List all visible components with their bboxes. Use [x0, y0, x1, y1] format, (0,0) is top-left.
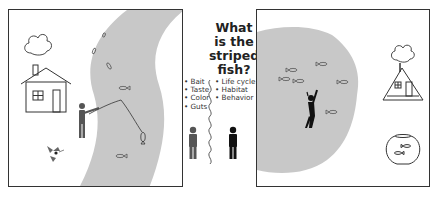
fisherman-perspective-list: Bait Taste Color Guts: [184, 78, 209, 111]
left-panel-fisherman-scene: [8, 9, 183, 187]
river: [79, 10, 183, 187]
person-left-icon: [189, 127, 197, 159]
fisherman-icon: [79, 103, 99, 138]
fish-remains-icon: [47, 146, 64, 162]
list-item: Guts: [184, 103, 209, 111]
fisherman-scene-illustration: [9, 10, 183, 187]
person-right-icon: [229, 127, 237, 159]
a-frame-house-icon: [383, 63, 423, 100]
list-item: Behavior: [215, 94, 255, 102]
cloud-icon: [25, 34, 52, 55]
lake: [257, 27, 358, 173]
house-icon: [21, 65, 71, 112]
lake-scene-illustration: [257, 10, 430, 187]
fishbowl-icon: [386, 135, 420, 165]
right-panel-lake-scene: [256, 9, 430, 187]
biologist-perspective-list: Life cycle Habitat Behavior: [215, 78, 255, 103]
cloud-icon: [391, 45, 414, 62]
